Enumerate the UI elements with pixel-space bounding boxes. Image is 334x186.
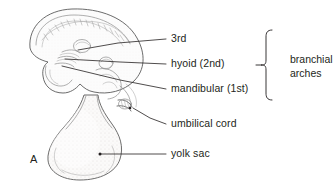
- branchial-arches-line1: branchial: [290, 53, 333, 65]
- brace-shape: [261, 30, 272, 100]
- panel-letter: A: [30, 153, 38, 165]
- label-group: 3rd hyoid (2nd) mandibular (1st) umbilic…: [171, 32, 248, 159]
- figure-canvas: 3rd hyoid (2nd) mandibular (1st) umbilic…: [0, 0, 334, 186]
- label-hyoid-arch: hyoid (2nd): [171, 57, 225, 69]
- label-third-arch: 3rd: [171, 32, 187, 44]
- yolk-sac-leader-dot: [99, 153, 102, 156]
- cranial-region: [28, 8, 148, 108]
- label-mandibular-arch: mandibular (1st): [171, 82, 248, 94]
- embryo-figure: 3rd hyoid (2nd) mandibular (1st) umbilic…: [0, 0, 334, 186]
- branchial-arches-bracket: branchial arches: [256, 30, 333, 100]
- embryo-illustration: [28, 8, 148, 184]
- yolk-sac-body: [44, 92, 128, 184]
- umbilical-cord-stub: [117, 99, 132, 111]
- branchial-arches-line2: arches: [290, 67, 322, 79]
- leader-umbilical-cord: [133, 108, 166, 124]
- label-yolk-sac: yolk sac: [171, 147, 210, 159]
- label-umbilical-cord: umbilical cord: [171, 117, 237, 129]
